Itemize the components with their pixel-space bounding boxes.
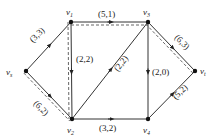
edge-label: (5,2): [170, 82, 189, 101]
node-label: vs: [6, 67, 13, 78]
edge-label: (2,2): [112, 53, 131, 73]
node-v3: [146, 20, 150, 24]
node-label: v2: [67, 125, 74, 136]
arrow-icon: [47, 45, 50, 48]
edge-v1-v2: [68, 22, 72, 119]
node-label: v3: [143, 7, 150, 18]
edge-label: (2,2): [76, 54, 93, 64]
node-vt: [193, 69, 197, 73]
nodes: vsv1v3vtv2v4: [6, 7, 206, 136]
edge-label: (3,3): [27, 25, 46, 44]
node-v4: [146, 117, 150, 121]
edge-label: (2,0): [152, 67, 169, 77]
flow-path-dashed: [68, 22, 69, 119]
edge-label: (6,3): [173, 32, 192, 51]
arrow-icon: [109, 69, 111, 72]
network-flow-diagram: (3,3)(6,2)(2,2)(5,1)(2,2)(3,2)(2,0)(6,3)…: [0, 0, 219, 140]
edge-label: (3,2): [99, 123, 116, 133]
arrow-icon: [48, 94, 51, 97]
arrow-icon: [170, 45, 173, 48]
node-v2: [70, 117, 74, 121]
edge-label: (6,2): [32, 98, 51, 117]
node-v1: [69, 20, 73, 24]
node-label: v4: [143, 125, 150, 136]
edges: [24, 22, 195, 121]
node-label: v1: [66, 7, 73, 18]
edge-v2-v3: [72, 22, 148, 119]
edge-vs-v1: [26, 22, 71, 71]
edge-vs-v2: [24, 71, 72, 121]
edge-label: (5,1): [98, 9, 115, 19]
node-label: vt: [200, 66, 206, 77]
node-vs: [24, 69, 28, 73]
edge-v1-v3: [71, 22, 148, 25]
